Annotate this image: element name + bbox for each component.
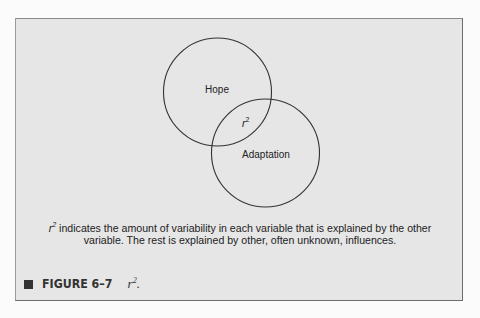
figure-title: r2.	[128, 276, 140, 292]
hope-label: Hope	[205, 84, 229, 95]
overlap-exponent: 2	[246, 116, 250, 123]
explanation-text: indicates the amount of variability in e…	[56, 222, 431, 246]
adaptation-label: Adaptation	[242, 149, 290, 160]
venn-diagram: Hope Adaptation r2	[16, 19, 464, 219]
figure-label: FIGURE 6–7	[42, 277, 112, 291]
figure-box: Hope Adaptation r2 r2 indicates the amou…	[15, 18, 463, 301]
figure-title-suffix: .	[137, 276, 140, 291]
figure-caption: FIGURE 6–7 r2.	[24, 276, 140, 292]
square-bullet-icon	[24, 280, 33, 289]
figure-explanation: r2 indicates the amount of variability i…	[36, 223, 444, 246]
overlap-symbol: r2	[242, 116, 250, 129]
